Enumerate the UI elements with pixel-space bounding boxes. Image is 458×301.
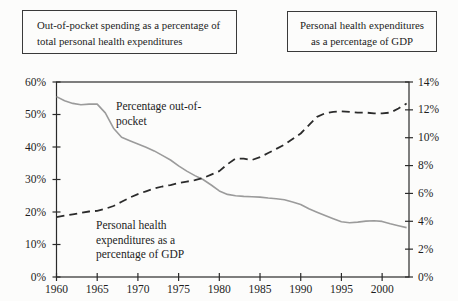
x-axis-tick-label: 1965 bbox=[79, 283, 115, 296]
right-axis-tick-label: 12% bbox=[418, 103, 439, 116]
series-label-out-of-pocket-line2: pocket bbox=[116, 114, 201, 129]
left-axis-tick-label: 20% bbox=[16, 206, 46, 219]
x-axis-tick-label: 1980 bbox=[201, 283, 237, 296]
right-axis-tick-label: 2% bbox=[418, 243, 433, 256]
left-axis-tick-label: 10% bbox=[16, 238, 46, 251]
series-label-gdp-line3: percentage of GDP bbox=[96, 247, 184, 262]
right-axis-tick-label: 8% bbox=[418, 159, 433, 172]
x-axis-tick-label: 1990 bbox=[283, 283, 319, 296]
plot-canvas bbox=[0, 0, 458, 301]
series-label-out-of-pocket-line1: Percentage out-of- bbox=[116, 99, 201, 114]
right-axis-tick-label: 6% bbox=[418, 187, 433, 200]
right-axis-tick-label: 4% bbox=[418, 215, 433, 228]
series-label-gdp: Personal health expenditures as a percen… bbox=[96, 218, 184, 262]
x-axis-tick-label: 1970 bbox=[120, 283, 156, 296]
left-axis-tick-label: 60% bbox=[16, 76, 46, 89]
left-axis-tick-label: 50% bbox=[16, 108, 46, 121]
series-label-gdp-line2: expenditures as a bbox=[96, 233, 184, 248]
left-axis-tick-label: 0% bbox=[16, 271, 46, 284]
x-axis-tick-label: 1995 bbox=[323, 283, 359, 296]
x-axis-tick-label: 1975 bbox=[161, 283, 197, 296]
x-axis-tick-label: 1985 bbox=[242, 283, 278, 296]
series-label-out-of-pocket: Percentage out-of- pocket bbox=[116, 99, 201, 129]
right-axis-tick-label: 10% bbox=[418, 131, 439, 144]
left-axis-tick-label: 40% bbox=[16, 141, 46, 154]
series-label-gdp-line1: Personal health bbox=[96, 218, 184, 233]
x-axis-tick-label: 2000 bbox=[364, 283, 400, 296]
right-axis-tick-label: 0% bbox=[418, 271, 433, 284]
left-axis-tick-label: 30% bbox=[16, 173, 46, 186]
x-axis-tick-label: 1960 bbox=[39, 283, 75, 296]
right-axis-tick-label: 14% bbox=[418, 76, 439, 89]
line-chart: Percentage out-of- pocket Personal healt… bbox=[0, 0, 458, 301]
